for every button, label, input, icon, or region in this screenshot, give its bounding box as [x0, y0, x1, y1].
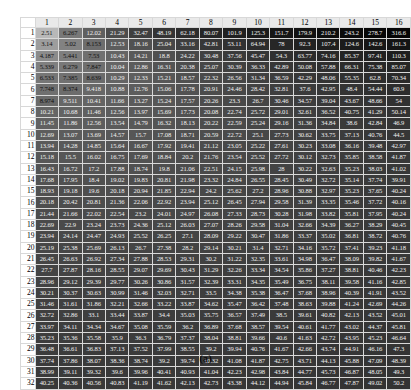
heatmap-cell-r12c11[interactable]: 27.72 — [270, 152, 293, 163]
heatmap-cell-r17c15[interactable]: 37.95 — [363, 208, 386, 219]
heatmap-cell-r28c2[interactable]: 35.36 — [59, 333, 82, 344]
column-header-7[interactable]: 7 — [176, 18, 199, 28]
heatmap-cell-r9c5[interactable]: 14.79 — [129, 118, 152, 129]
heatmap-cell-r14c10[interactable]: 26.55 — [246, 174, 269, 185]
heatmap-cell-r23c6[interactable]: 30.86 — [152, 276, 175, 287]
heatmap-cell-r7c14[interactable]: 43.67 — [340, 95, 363, 106]
heatmap-cell-r6c12[interactable]: 37.6 — [293, 84, 316, 95]
heatmap-cell-r20c2[interactable]: 25.38 — [59, 242, 82, 253]
heatmap-cell-r3c15[interactable]: 97.41 — [363, 50, 386, 61]
heatmap-cell-r2c13[interactable]: 107.4 — [317, 39, 340, 50]
heatmap-cell-r23c13[interactable]: 38.11 — [317, 276, 340, 287]
heatmap-cell-r27c2[interactable]: 34.11 — [59, 321, 82, 332]
heatmap-cell-r13c11[interactable]: 28 — [270, 163, 293, 174]
heatmap-cell-r26c8[interactable]: 35.75 — [199, 310, 222, 321]
heatmap-cell-r31c1[interactable]: 38.99 — [35, 366, 58, 377]
row-header-11[interactable]: 11 — [21, 140, 36, 151]
heatmap-cell-r7c8[interactable]: 20.26 — [199, 95, 222, 106]
heatmap-cell-r3c10[interactable]: 45.47 — [246, 50, 269, 61]
heatmap-cell-r1c1[interactable]: 2.51 — [35, 28, 58, 39]
heatmap-cell-r20c15[interactable]: 39.23 — [363, 242, 386, 253]
heatmap-cell-r26c5[interactable]: 33.87 — [129, 310, 152, 321]
heatmap-cell-r10c1[interactable]: 12.69 — [35, 129, 58, 140]
heatmap-cell-r28c8[interactable]: 38.04 — [199, 333, 222, 344]
heatmap-cell-r25c15[interactable]: 42.69 — [363, 299, 386, 310]
heatmap-cell-r31c8[interactable]: 41.04 — [199, 366, 222, 377]
heatmap-cell-r16c2[interactable]: 20.42 — [59, 197, 82, 208]
heatmap-cell-r21c10[interactable]: 32.35 — [246, 253, 269, 264]
heatmap-cell-r8c5[interactable]: 13.97 — [129, 107, 152, 118]
heatmap-cell-r32c6[interactable]: 41.62 — [152, 378, 175, 389]
heatmap-cell-r21c13[interactable]: 36.47 — [317, 253, 340, 264]
heatmap-cell-r21c6[interactable]: 28.53 — [152, 253, 175, 264]
heatmap-cell-r18c16[interactable]: 40.45 — [387, 220, 411, 231]
heatmap-cell-r17c9[interactable]: 27.33 — [223, 208, 246, 219]
row-header-23[interactable]: 23 — [21, 276, 36, 287]
heatmap-cell-r19c16[interactable]: 40.76 — [387, 231, 411, 242]
row-header-6[interactable]: 6 — [21, 84, 36, 95]
heatmap-cell-r18c9[interactable]: 28.26 — [223, 220, 246, 231]
heatmap-cell-r22c5[interactable]: 29.07 — [129, 265, 152, 276]
heatmap-cell-r1c16[interactable]: 316.6 — [387, 28, 411, 39]
heatmap-cell-r28c9[interactable]: 38.81 — [223, 333, 246, 344]
heatmap-cell-r12c12[interactable]: 30.12 — [293, 152, 316, 163]
heatmap-cell-r23c7[interactable]: 31.57 — [176, 276, 199, 287]
heatmap-cell-r22c1[interactable]: 27.7 — [35, 265, 58, 276]
column-header-4[interactable]: 4 — [105, 18, 128, 28]
heatmap-cell-r13c8[interactable]: 22.51 — [199, 163, 222, 174]
heatmap-cell-r3c13[interactable]: 74.16 — [317, 50, 340, 61]
heatmap-cell-r25c16[interactable]: 44.26 — [387, 299, 411, 310]
heatmap-cell-r20c8[interactable]: 29.14 — [199, 242, 222, 253]
heatmap-cell-r26c6[interactable]: 34.4 — [152, 310, 175, 321]
heatmap-cell-r1c5[interactable]: 32.47 — [129, 28, 152, 39]
heatmap-cell-r22c8[interactable]: 31.29 — [199, 265, 222, 276]
heatmap-cell-r6c8[interactable]: 20.91 — [199, 84, 222, 95]
column-header-16[interactable]: 16 — [387, 18, 411, 28]
heatmap-cell-r9c2[interactable]: 11.86 — [59, 118, 82, 129]
heatmap-cell-r15c9[interactable]: 25.62 — [223, 186, 246, 197]
heatmap-cell-r16c15[interactable]: 37.72 — [363, 197, 386, 208]
heatmap-cell-r15c16[interactable]: 40.24 — [387, 186, 411, 197]
heatmap-cell-r31c6[interactable]: 40.41 — [152, 366, 175, 377]
heatmap-cell-r18c10[interactable]: 29.58 — [246, 220, 269, 231]
heatmap-cell-r9c16[interactable]: 46.9 — [387, 118, 411, 129]
heatmap-cell-r31c7[interactable]: 40.93 — [176, 366, 199, 377]
heatmap-cell-r27c16[interactable]: 45.81 — [387, 321, 411, 332]
heatmap-cell-r6c4[interactable]: 10.88 — [105, 84, 128, 95]
heatmap-cell-r32c11[interactable]: 44.94 — [270, 378, 293, 389]
heatmap-cell-r11c13[interactable]: 33.08 — [317, 140, 340, 151]
heatmap-cell-r15c13[interactable]: 32.97 — [317, 186, 340, 197]
heatmap-cell-r4c16[interactable]: 85.07 — [387, 61, 411, 72]
heatmap-cell-r21c1[interactable]: 26.45 — [35, 253, 58, 264]
heatmap-cell-r25c6[interactable]: 33.22 — [152, 299, 175, 310]
heatmap-cell-r8c10[interactable]: 25.72 — [246, 107, 269, 118]
heatmap-cell-r23c12[interactable]: 36.75 — [293, 276, 316, 287]
heatmap-cell-r10c12[interactable]: 30.62 — [293, 129, 316, 140]
heatmap-cell-r28c1[interactable]: 35.23 — [35, 333, 58, 344]
heatmap-cell-r1c11[interactable]: 151.7 — [270, 28, 293, 39]
heatmap-cell-r8c14[interactable]: 40.75 — [340, 107, 363, 118]
column-header-3[interactable]: 3 — [82, 18, 105, 28]
heatmap-cell-r10c7[interactable]: 18.71 — [176, 129, 199, 140]
heatmap-cell-r16c3[interactable]: 20.81 — [82, 197, 105, 208]
heatmap-cell-r5c7[interactable]: 18.57 — [176, 73, 199, 84]
heatmap-cell-r24c7[interactable]: 32.71 — [176, 287, 199, 298]
heatmap-cell-r8c9[interactable]: 22.74 — [223, 107, 246, 118]
heatmap-cell-r14c16[interactable]: 39.91 — [387, 174, 411, 185]
heatmap-cell-r15c12[interactable]: 30.88 — [293, 186, 316, 197]
heatmap-cell-r21c4[interactable]: 27.34 — [105, 253, 128, 264]
heatmap-cell-r19c5[interactable]: 25.52 — [129, 231, 152, 242]
heatmap-cell-r32c3[interactable]: 40.56 — [82, 378, 105, 389]
heatmap-cell-r4c11[interactable]: 42.89 — [270, 61, 293, 72]
heatmap-cell-r26c2[interactable]: 32.86 — [59, 310, 82, 321]
heatmap-cell-r4c8[interactable]: 25.07 — [199, 61, 222, 72]
heatmap-cell-r8c13[interactable]: 36.52 — [317, 107, 340, 118]
heatmap-cell-r26c14[interactable]: 42.13 — [340, 310, 363, 321]
heatmap-cell-r24c15[interactable]: 41.91 — [363, 287, 386, 298]
heatmap-cell-r32c2[interactable]: 40.36 — [59, 378, 82, 389]
heatmap-cell-r16c14[interactable]: 35.46 — [340, 197, 363, 208]
heatmap-cell-r8c7[interactable]: 17.73 — [176, 107, 199, 118]
heatmap-cell-r17c14[interactable]: 35.81 — [340, 208, 363, 219]
row-header-7[interactable]: 7 — [21, 95, 36, 106]
heatmap-cell-r13c5[interactable]: 18.74 — [129, 163, 152, 174]
